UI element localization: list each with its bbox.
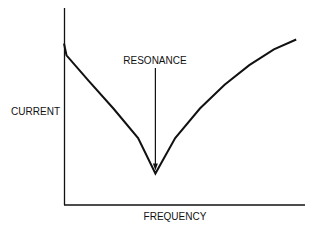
x-axis-label: FREQUENCY	[144, 211, 207, 222]
resonance-diagram: RESONANCE CURRENT FREQUENCY	[0, 0, 315, 227]
resonance-label: RESONANCE	[123, 55, 187, 66]
y-axis-label: CURRENT	[11, 106, 60, 117]
